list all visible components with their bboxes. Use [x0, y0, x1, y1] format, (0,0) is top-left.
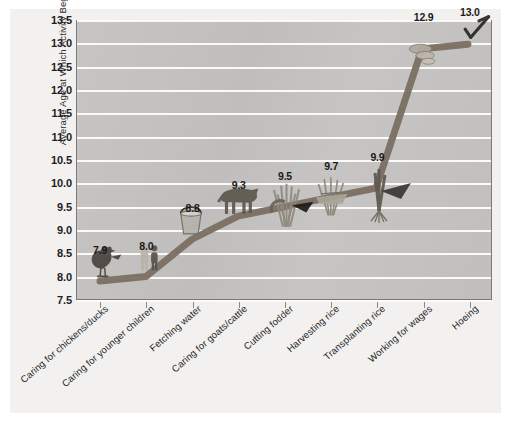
x-axis-category-label: Caring for chickens/ducks: [18, 303, 110, 385]
value-label: 9.9: [370, 151, 384, 163]
y-tick-label: 13.0: [26, 37, 72, 49]
value-label: 12.9: [414, 11, 434, 23]
value-label: 9.7: [324, 160, 338, 172]
gridline: [77, 67, 491, 69]
y-axis-tick-labels: 13.513.012.512.011.511.010.510.09.59.08.…: [20, 20, 72, 300]
value-label: 9.3: [232, 179, 246, 191]
y-tick-label: 11.5: [26, 107, 72, 119]
gridline: [77, 113, 491, 115]
value-label: 9.5: [278, 170, 292, 182]
gridline: [77, 160, 491, 162]
value-label: 13.0: [460, 6, 480, 18]
value-label: 8.0: [139, 240, 153, 252]
gridline: [77, 183, 491, 185]
x-axis-category-label: Caring for goats/cattle: [169, 303, 249, 374]
y-tick-label: 7.5: [26, 294, 72, 306]
y-tick-label: 13.5: [26, 14, 72, 26]
y-tick-label: 10.0: [26, 177, 72, 189]
x-axis-category-label: Caring for younger children: [60, 303, 157, 389]
y-tick-label: 10.5: [26, 154, 72, 166]
plot-area: 7.98.08.89.39.59.79.912.913.0: [76, 20, 492, 300]
figure-card: Average Age at Which Activity Begins 13.…: [10, 9, 501, 413]
scan-bleed-strip: · · · · · ·: [0, 0, 511, 9]
value-label: 7.9: [93, 244, 107, 256]
y-tick-label: 8.0: [26, 271, 72, 283]
gridline: [77, 253, 491, 255]
y-tick-label: 11.0: [26, 131, 72, 143]
y-tick-label: 12.0: [26, 84, 72, 96]
y-tick-label: 12.5: [26, 61, 72, 73]
gridline: [77, 230, 491, 232]
y-tick-label: 9.0: [26, 224, 72, 236]
gridline: [77, 300, 491, 302]
coins-wages-icon: [402, 41, 448, 79]
scan-bleed-text: · · · · · ·: [0, 0, 28, 3]
y-tick-label: 9.5: [26, 201, 72, 213]
rice-seedling-icon: [355, 167, 413, 225]
gridline: [77, 137, 491, 139]
y-tick-label: 8.5: [26, 247, 72, 259]
value-label: 8.8: [186, 202, 200, 214]
gridline: [77, 43, 491, 45]
x-axis-category-label: Hoeing: [449, 303, 480, 332]
gridline: [77, 277, 491, 279]
gridline: [77, 90, 491, 92]
rice-sheaf-icon: [311, 172, 359, 224]
gridline: [77, 207, 491, 209]
